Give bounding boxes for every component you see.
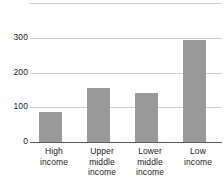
x-label-lower-middle-income: Lower middle income — [126, 146, 174, 185]
x-label-line: income — [174, 157, 222, 168]
bar-upper-middle-income[interactable] — [87, 88, 110, 142]
x-label-line: income — [126, 167, 174, 178]
bar-lower-middle-income[interactable] — [135, 93, 158, 142]
bar-chart: 300 200 100 0 High income Upper middle i… — [0, 0, 224, 185]
x-label-line: income — [78, 167, 126, 178]
x-label-line: High — [30, 146, 78, 157]
x-label-line: income — [30, 157, 78, 168]
bar-low-income[interactable] — [183, 40, 206, 143]
y-tick-label-100: 100 — [0, 102, 28, 111]
bar-high-income[interactable] — [39, 112, 62, 142]
y-tick-label-0: 0 — [0, 137, 28, 146]
x-label-low-income: Low income — [174, 146, 222, 185]
x-label-line: middle — [78, 157, 126, 168]
y-axis-tick-labels: 300 200 100 0 — [0, 0, 28, 185]
y-tick-label-300: 300 — [0, 33, 28, 42]
x-axis-category-labels: High income Upper middle income Lower mi… — [30, 146, 222, 185]
x-axis-baseline — [30, 142, 222, 143]
x-label-line: Low — [174, 146, 222, 157]
bars-layer — [30, 0, 222, 142]
x-label-line: Upper — [78, 146, 126, 157]
x-label-line: middle — [126, 157, 174, 168]
x-label-upper-middle-income: Upper middle income — [78, 146, 126, 185]
x-label-high-income: High income — [30, 146, 78, 185]
x-label-line: Lower — [126, 146, 174, 157]
y-tick-label-200: 200 — [0, 68, 28, 77]
